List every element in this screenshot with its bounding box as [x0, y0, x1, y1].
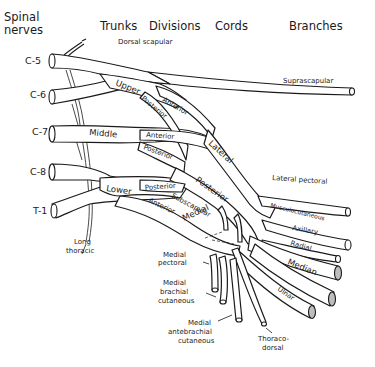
root-label-c8: C-8 — [30, 166, 46, 177]
root-label-t1: T-1 — [32, 205, 47, 216]
header-branches: Branches — [289, 19, 343, 33]
root-c8-end — [49, 164, 55, 180]
leader-medial-brachial — [206, 293, 216, 297]
dorsal-scapular-nerve — [64, 39, 86, 58]
axillary-end — [336, 256, 341, 263]
header-divisions: Divisions — [149, 19, 201, 33]
root-c6-end — [49, 90, 55, 104]
medial-brachial-cutaneous-end — [220, 300, 226, 304]
median-end — [329, 292, 336, 306]
medial-brachial-cutaneous-nerve — [219, 256, 227, 302]
header-trunks: Trunks — [99, 19, 137, 33]
lateral-pectoral-end — [346, 208, 351, 216]
root-label-c5: C-5 — [25, 55, 41, 66]
ulnar-end — [309, 306, 316, 319]
header-spinal-nerves-1: Spinal — [4, 10, 39, 24]
label-thoracodorsal-1: Thoraco- — [257, 335, 289, 343]
label-dorsal-scapular: Dorsal scapular — [118, 38, 173, 46]
medial-antebrachial-cutaneous-end — [236, 318, 242, 322]
label-medial-antebrachial-3: cutaneous — [178, 337, 215, 345]
label-thoracodorsal-2: dorsal — [262, 344, 284, 352]
label-medial-pectoral-2: pectoral — [158, 259, 187, 267]
musculocutaneous-end — [345, 240, 351, 250]
brachial-plexus-diagram: Spinal nerves Trunks Divisions Cords Bra… — [0, 0, 375, 367]
leader-thoracodorsal — [266, 328, 272, 333]
medial-pectoral-end — [212, 288, 218, 292]
label-long-thoracic-2: thoracic — [66, 247, 94, 255]
root-t1-end — [51, 204, 57, 218]
label-medial-brachial-3: cutaneous — [158, 297, 195, 305]
label-medial-pectoral-1: Medial — [163, 251, 186, 259]
radial-end — [335, 266, 342, 280]
label-medial-brachial-2: brachial — [160, 288, 188, 296]
root-c5-end — [49, 54, 55, 68]
header-cords: Cords — [215, 19, 248, 33]
thoracodorsal-end — [262, 322, 267, 326]
root-label-c7: C-7 — [32, 126, 48, 137]
label-long-thoracic-1: Long — [74, 238, 91, 246]
root-c7-end — [49, 126, 55, 142]
label-medial-antebrachial-1: Medial — [188, 319, 211, 327]
leader-medial-antebrachial — [218, 315, 232, 321]
label-lateral-pectoral: Lateral pectoral — [272, 174, 328, 186]
leader-medial-pectoral — [203, 262, 209, 264]
medial-pectoral-nerve — [210, 254, 218, 290]
suprascapular-end — [350, 88, 355, 95]
label-suprascapular: Suprascapular — [283, 77, 333, 85]
root-label-c6: C-6 — [30, 89, 46, 100]
header-spinal-nerves-2: nerves — [4, 23, 43, 37]
label-medial-antebrachial-2: antebrachial — [168, 328, 212, 336]
label-medial-brachial-1: Medial — [163, 279, 186, 287]
